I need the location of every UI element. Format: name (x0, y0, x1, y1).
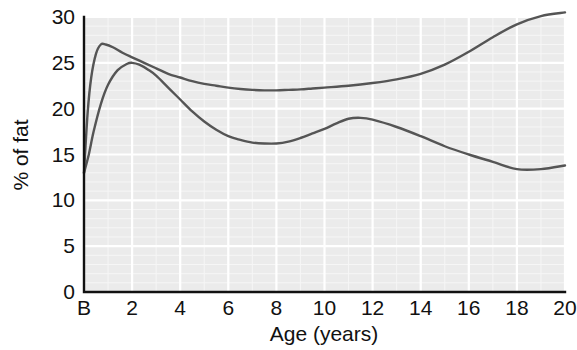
x-tick-label: 18 (505, 296, 528, 319)
y-tick-label: 10 (52, 188, 75, 211)
x-tick-label: 20 (553, 296, 576, 319)
x-tick-label: 14 (409, 296, 433, 319)
y-tick-label: 5 (63, 234, 75, 257)
x-tick-label: 4 (174, 296, 186, 319)
x-tick-label: 6 (222, 296, 234, 319)
y-tick-label: 30 (52, 5, 75, 28)
y-tick-label: 25 (52, 51, 75, 74)
x-tick-label: 8 (271, 296, 283, 319)
y-tick-label: 20 (52, 97, 75, 120)
x-axis-title: Age (years) (270, 322, 379, 345)
x-tick-label: 16 (457, 296, 480, 319)
y-tick-label: 0 (63, 280, 75, 303)
y-axis-title: % of fat (9, 119, 32, 190)
x-tick-label: 12 (361, 296, 384, 319)
x-tick-label: 10 (313, 296, 336, 319)
fat-percentage-chart: 051015202530 B2468101214161820 % of fat … (0, 0, 577, 350)
x-tick-label: 2 (126, 296, 138, 319)
x-tick-label: B (77, 296, 91, 319)
y-tick-label: 15 (52, 143, 75, 166)
chart-canvas: 051015202530 B2468101214161820 % of fat … (0, 0, 577, 350)
